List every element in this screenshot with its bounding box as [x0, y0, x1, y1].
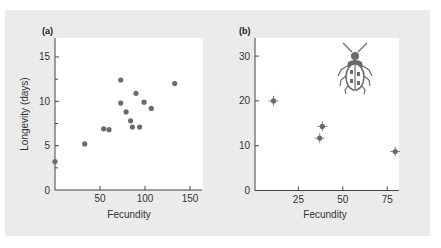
y-tick-label: 15: [39, 51, 51, 62]
data-point: [124, 109, 129, 114]
data-point: [172, 81, 177, 86]
y-tick-label: 20: [239, 95, 251, 106]
y-tick-label: 0: [244, 185, 250, 196]
data-point: [118, 100, 123, 105]
panel-label-a: (a): [42, 26, 53, 36]
panel-b: (b) 0102030255075 Fecundity: [239, 26, 400, 220]
data-point: [137, 124, 142, 129]
x-tick-label: 25: [293, 194, 305, 205]
data-point: [393, 149, 398, 154]
data-point: [271, 98, 276, 103]
data-point: [82, 141, 87, 146]
data-point: [52, 159, 57, 164]
data-point: [320, 124, 325, 129]
data-point: [317, 135, 322, 140]
y-tick-label: 5: [44, 140, 50, 151]
x-tick-label: 50: [337, 194, 349, 205]
x-axis-label-b: Fecundity: [303, 209, 346, 220]
plot-area-b: [255, 38, 399, 190]
x-axis-label-a: Fecundity: [107, 209, 150, 220]
data-point: [128, 118, 133, 123]
panel-label-b: (b): [239, 26, 251, 36]
y-tick-label: 30: [239, 51, 251, 62]
x-tick-label: 75: [382, 194, 394, 205]
data-point: [142, 100, 147, 105]
y-axis-label-a: Longevity (days): [19, 77, 30, 150]
y-tick-label: 10: [39, 96, 51, 107]
panel-a: (a) 05101550100150 Fecundity Longevity (…: [19, 26, 203, 220]
data-point: [133, 91, 138, 96]
x-tick-label: 100: [137, 193, 154, 204]
x-tick-label: 150: [182, 193, 199, 204]
data-point: [130, 124, 135, 129]
plot-area-a: [55, 38, 203, 190]
x-tick-label: 50: [94, 193, 106, 204]
y-tick-label: 10: [239, 140, 251, 151]
data-point: [149, 106, 154, 111]
data-point: [101, 126, 106, 131]
data-point: [118, 77, 123, 82]
y-tick-label: 0: [44, 185, 50, 196]
figure-svg: (a) 05101550100150 Fecundity Longevity (…: [0, 0, 441, 248]
data-point: [106, 127, 111, 132]
